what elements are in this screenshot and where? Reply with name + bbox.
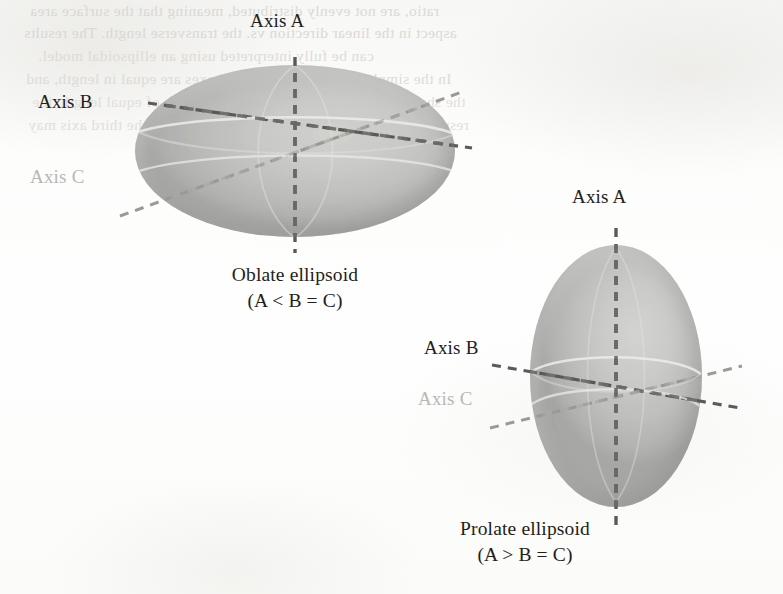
prolate-axis-b-label: Axis B [424,337,479,359]
oblate-caption-relation: (A < B = C) [155,288,435,314]
prolate-caption: Prolate ellipsoid (A > B = C) [400,516,650,567]
oblate-axis-b-label: Axis B [38,91,93,113]
prolate-axis-a-label: Axis A [572,186,627,208]
oblate-caption: Oblate ellipsoid (A < B = C) [155,262,435,313]
oblate-ellipsoid-body [135,65,455,237]
bleed-through-line-1: ratio, are not evenly distributed, meani… [30,2,439,20]
oblate-caption-name: Oblate ellipsoid [232,264,358,285]
bleed-through-line-3: can be fully interpreted using an ellips… [38,47,374,65]
oblate-axis-a-label: Axis A [250,10,305,32]
oblate-axis-c-label: Axis C [30,166,85,188]
prolate-caption-relation: (A > B = C) [400,542,650,568]
prolate-ellipsoid-body [530,245,702,507]
bleed-through-line-2: aspect in the linear direction vs. the t… [24,24,457,42]
figure-page: ratio, are not evenly distributed, meani… [0,0,783,594]
prolate-caption-name: Prolate ellipsoid [460,518,590,539]
prolate-axis-c-label: Axis C [418,388,473,410]
